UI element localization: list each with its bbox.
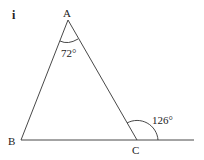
vertex-label-b: B (8, 135, 15, 147)
vertex-label-c: C (132, 144, 139, 156)
angle-label-c-exterior: 126° (152, 114, 173, 126)
side-ab (21, 20, 68, 140)
angle-label-a: 72° (61, 47, 76, 59)
part-label: i (12, 8, 16, 22)
vertex-label-a: A (63, 7, 71, 19)
side-ac (68, 20, 137, 140)
triangle-diagram: i A B C 72° 126° (0, 0, 204, 160)
angle-arc-a (60, 39, 78, 43)
